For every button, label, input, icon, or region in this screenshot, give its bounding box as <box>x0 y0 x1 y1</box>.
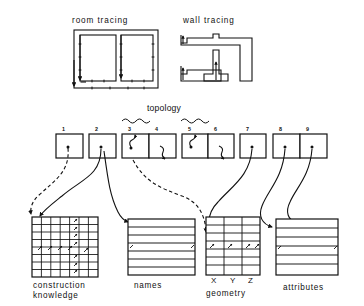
geometry-column-header-x: X <box>211 277 217 286</box>
table-construction-knowledge <box>32 217 98 277</box>
diagram-canvas: room tracing wall tracing topology <box>0 0 364 306</box>
table-label-construction-knowledge-line1: construction <box>33 281 86 290</box>
geometry-column-header-y: Y <box>230 277 236 286</box>
table-label-geometry: geometry <box>206 289 246 298</box>
table-label-construction-knowledge-line2: knowledge <box>33 291 78 300</box>
table-label-names: names <box>134 281 162 290</box>
geometry-column-header-z: Z <box>248 277 253 286</box>
table-attributes <box>276 219 338 275</box>
table-geometry <box>206 217 260 275</box>
table-label-attributes: attributes <box>283 283 324 292</box>
tables-layer <box>0 0 364 306</box>
table-names <box>128 219 195 275</box>
